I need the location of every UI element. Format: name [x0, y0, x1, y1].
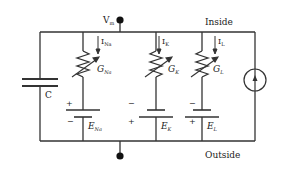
sign-l-bottom: +	[189, 117, 196, 126]
ground-node	[116, 152, 123, 159]
emf-label-na: ENa	[87, 121, 102, 132]
inside-label: Inside	[205, 17, 233, 27]
capacitor	[22, 79, 58, 86]
emf-label-k: EK	[160, 121, 172, 132]
current-label-l: IL	[218, 37, 225, 47]
emf-label-l: EL	[206, 121, 218, 132]
sign-l-top: −	[189, 99, 196, 108]
current-label-k: IK	[162, 37, 169, 47]
circuit-diagram: Vm Inside Outside C INa IK IL GNa GK GL …	[0, 0, 286, 172]
capacitor-label: C	[45, 90, 52, 100]
conductance-label-l: GL	[213, 64, 224, 75]
current-label-na: INa	[101, 37, 112, 47]
sign-k-bottom: +	[128, 117, 135, 126]
current-source	[244, 69, 266, 91]
vm-label: Vm	[102, 15, 115, 26]
outside-label: Outside	[205, 150, 240, 160]
batteries	[66, 110, 219, 117]
variable-arrows	[72, 57, 218, 77]
arrow-up-icon	[253, 75, 258, 81]
sign-na-bottom: −	[67, 117, 74, 126]
sign-na-top: +	[66, 99, 73, 108]
sign-k-top: −	[128, 99, 135, 108]
conductance-label-k: GK	[168, 64, 179, 75]
conductance-label-na: GNa	[97, 64, 112, 75]
vm-node	[116, 16, 123, 23]
